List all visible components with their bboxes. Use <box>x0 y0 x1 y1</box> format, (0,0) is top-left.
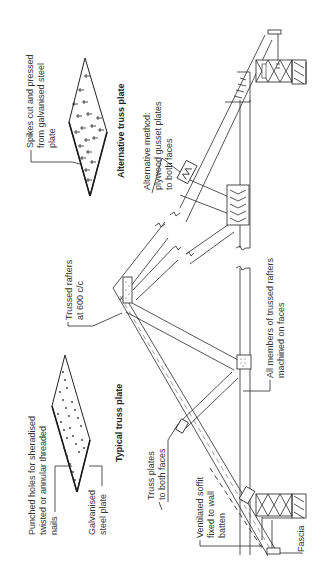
label-fascia: Fascia <box>296 525 306 552</box>
svg-text:Truss plates: Truss plates <box>146 451 156 500</box>
leader-spikes <box>31 150 80 164</box>
svg-text:Trussed rafters: Trussed rafters <box>64 259 74 320</box>
apex-plate <box>123 277 132 303</box>
truss-diagram: Spikes cut and pressed from galvanised s… <box>0 0 319 574</box>
svg-text:to both faces: to both faces <box>164 138 174 190</box>
svg-text:Alternative truss plate: Alternative truss plate <box>116 83 126 178</box>
label-galvanised: Galvanised steel plate <box>87 490 108 535</box>
svg-text:machined on faces: machined on faces <box>276 302 286 378</box>
svg-text:from galvanised steel: from galvanised steel <box>36 63 46 148</box>
plywood-gusset-main <box>227 185 249 225</box>
svg-text:batten: batten <box>217 513 227 538</box>
ceiling-node-plate <box>237 355 251 369</box>
label-alternative-method: Alternative method: plywood gusset plate… <box>142 101 174 190</box>
svg-text:All members of trussed rafters: All members of trussed rafters <box>265 257 275 378</box>
heel-gusset-top <box>225 72 250 102</box>
label-all-members: All members of trussed rafters machined … <box>265 257 286 378</box>
title-alternative-plate: Alternative truss plate <box>116 83 126 178</box>
svg-text:Fascia: Fascia <box>296 525 306 552</box>
svg-text:Spikes cut and pressed: Spikes cut and pressed <box>25 54 35 148</box>
leader-soffit <box>200 540 262 546</box>
svg-text:to both faces: to both faces <box>157 448 167 500</box>
label-truss-plates: Truss plates to both faces <box>146 448 167 500</box>
leader-all-members <box>243 380 270 391</box>
typical-truss-plate <box>52 355 90 492</box>
leader-galvanised <box>89 466 102 486</box>
svg-text:twisted or annular threaded: twisted or annular threaded <box>38 426 48 535</box>
svg-text:at 600 c/c: at 600 c/c <box>75 280 85 320</box>
label-soffit: Ventilated soffit fixed to wall batten <box>195 477 227 538</box>
svg-text:Ventilated soffit: Ventilated soffit <box>195 477 205 538</box>
web-truss-plate <box>176 419 189 433</box>
svg-text:Punched holes for sheradised: Punched holes for sheradised <box>27 416 37 535</box>
leader-punched-holes <box>55 466 72 512</box>
svg-text:fixed to wall: fixed to wall <box>206 491 216 538</box>
leader-fascia <box>278 553 302 554</box>
label-punched-holes: Punched holes for sheradised twisted or … <box>27 416 59 535</box>
svg-text:Galvanised: Galvanised <box>87 490 97 535</box>
title-typical-plate: Typical truss plate <box>114 384 124 462</box>
svg-text:steel plate: steel plate <box>98 494 108 535</box>
alternative-truss-plate <box>69 58 107 196</box>
label-trussed-rafters: Trussed rafters at 600 c/c <box>64 259 85 320</box>
svg-text:nails: nails <box>49 516 59 535</box>
fascia-bottom <box>267 548 280 554</box>
fascia-top <box>268 30 281 34</box>
svg-text:Alternative method:: Alternative method: <box>142 112 152 190</box>
svg-text:plywood gusset plates: plywood gusset plates <box>153 101 163 190</box>
svg-text:Typical truss plate: Typical truss plate <box>114 384 124 462</box>
label-spikes: Spikes cut and pressed from galvanised s… <box>25 54 57 148</box>
svg-text:plate: plate <box>47 128 57 148</box>
